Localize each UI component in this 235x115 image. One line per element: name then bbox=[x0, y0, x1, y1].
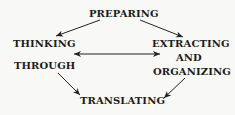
arrow-preparing-to-extracting bbox=[140, 20, 183, 37]
arrow-organizing-to-translating bbox=[164, 78, 185, 98]
node-preparing: PREPARING bbox=[89, 8, 159, 20]
node-thinking-line2: THROUGH bbox=[14, 60, 75, 72]
node-translating: TRANSLATING bbox=[80, 95, 165, 107]
process-diagram: PREPARING THINKING THROUGH EXTRACTING AN… bbox=[0, 0, 235, 115]
arrow-thinking-to-translating bbox=[58, 73, 80, 95]
node-thinking-line1: THINKING bbox=[13, 38, 76, 50]
node-extracting-line3: ORGANIZING bbox=[153, 66, 231, 78]
node-extracting-line1: EXTRACTING bbox=[152, 38, 230, 50]
arrow-preparing-to-thinking bbox=[56, 20, 100, 36]
node-extracting-line2: AND bbox=[176, 52, 202, 64]
